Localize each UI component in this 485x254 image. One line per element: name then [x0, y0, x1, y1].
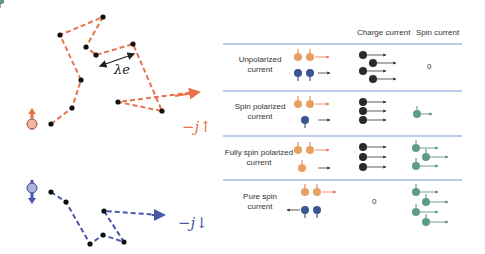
- mean-free-path-label: λe: [114, 62, 130, 77]
- header-charge-current: Charge current: [357, 28, 410, 37]
- spin-down-electron-icon: [27, 180, 37, 204]
- row-label-line2: current: [219, 158, 299, 168]
- spin-up-current-label: −j↑: [182, 118, 212, 136]
- header-spin-current: Spin current: [416, 28, 459, 37]
- row-label-line1: Unpolarized: [225, 55, 295, 65]
- row-label-line1: Pure spin: [225, 192, 295, 202]
- row-label-line1: Fully spin polarized: [219, 148, 299, 158]
- row-label-unpolarized: Unpolarized current: [225, 55, 295, 75]
- spin-up-electron-icon: [27, 108, 37, 130]
- row-spin-polarized-electrons: [294, 96, 432, 128]
- row-label-line2: current: [225, 112, 295, 122]
- row-label-line2: current: [225, 65, 295, 75]
- pure-spin-charge-value: 0: [372, 197, 376, 206]
- row-unpolarized-electrons: [294, 49, 396, 83]
- row-label-line1: Spin polarized: [225, 102, 295, 112]
- diagram-canvas: [0, 0, 485, 254]
- row-pure-spin-electrons: [287, 184, 448, 226]
- spin-down-current-label: −j↓: [178, 214, 208, 232]
- row-label-line2: current: [225, 202, 295, 212]
- spin-down-path: [48, 189, 164, 246]
- row-fully-polarized-electrons: [294, 140, 448, 172]
- row-label-spin-polarized: Spin polarized current: [225, 102, 295, 122]
- unpolarized-spin-value: 0: [427, 62, 431, 71]
- row-label-pure-spin: Pure spin current: [225, 192, 295, 212]
- row-label-fully-spin-polarized: Fully spin polarized current: [219, 148, 299, 168]
